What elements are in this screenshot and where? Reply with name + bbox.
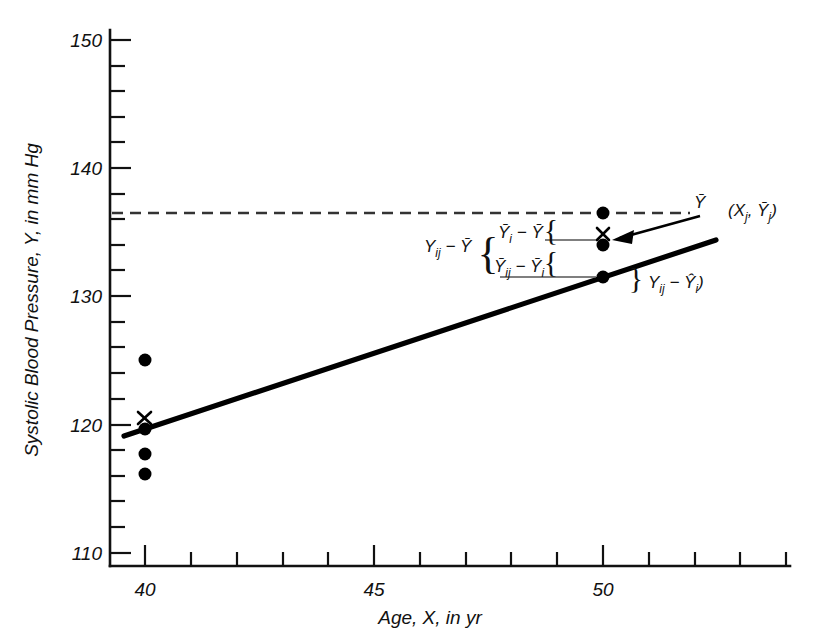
y-tick-label-120: 120	[70, 415, 102, 436]
y-tick-label-140: 140	[70, 158, 102, 179]
data-group-age-40	[138, 354, 152, 481]
data-point	[597, 207, 610, 220]
annot-coord-close: )	[769, 201, 777, 220]
annot-err-sub2: i	[541, 266, 544, 280]
data-point	[139, 354, 152, 367]
svg-text:Yij − Ȳ: Yij − Ȳ	[424, 237, 473, 260]
data-point	[139, 468, 152, 481]
scatter-plot-figure: 150 140 130 120 110 Systolic Blood Press…	[0, 0, 837, 643]
arrow-head	[612, 230, 634, 244]
group-mean-marker-50	[597, 228, 609, 240]
y-tick-label-110: 110	[72, 543, 103, 564]
x-tick-label-40: 40	[134, 579, 156, 600]
inner-brace-bottom-right: {	[544, 245, 558, 278]
regression-line	[124, 240, 716, 436]
annot-err-mid: − Ȳ	[511, 257, 543, 276]
x-tick-label-45: 45	[363, 579, 385, 600]
annotation-residual-label: Yij − Ŷi)	[648, 273, 704, 296]
group-mean-marker-40	[138, 412, 151, 424]
figure-container: 150 140 130 120 110 Systolic Blood Press…	[0, 0, 837, 643]
y-axis-title: Systolic Blood Pressure, Y, in mm Hg	[21, 143, 42, 457]
data-point	[139, 448, 152, 461]
svg-text:Yij − Ŷi): Yij − Ŷi)	[648, 273, 704, 296]
grand-mean-label: Ȳ	[694, 193, 707, 212]
data-point	[139, 423, 152, 436]
residual-brace: }	[629, 261, 643, 294]
annot-total-rest: − Ȳ	[441, 237, 473, 256]
x-axis: 40 45 50 Age, X, in yr	[110, 545, 790, 628]
y-axis: 150 140 130 120 110 Systolic Blood Press…	[21, 30, 131, 566]
annotation-point-coordinate: (Xj, Ȳj)	[728, 201, 777, 224]
x-tick-label-50: 50	[592, 579, 614, 600]
data-group-age-50	[597, 207, 610, 284]
x-axis-title: Age, X, in yr	[377, 607, 482, 628]
annot-resid-paren: )	[696, 273, 704, 292]
y-tick-label-130: 130	[70, 286, 102, 307]
data-point	[597, 239, 610, 252]
svg-text:Ȳi − Ȳ: Ȳi − Ȳ	[498, 223, 544, 246]
y-tick-label-150: 150	[70, 30, 102, 51]
data-point	[597, 271, 610, 284]
inner-brace-top-right: {	[544, 213, 558, 246]
annot-treat-rest: − Ȳ	[512, 223, 544, 242]
annotation-treatment-deviation: Ȳi − Ȳ	[498, 223, 544, 246]
svg-text:(Xj, Ȳj): (Xj, Ȳj)	[728, 201, 777, 224]
annotation-total-deviation: Yij − Ȳ	[424, 237, 473, 260]
annot-resid-rest: − Ŷ	[665, 273, 697, 292]
annotation-arrow	[612, 216, 700, 244]
annot-coord-mid: , Ȳ	[748, 201, 770, 220]
annot-coord-open: (X	[728, 201, 746, 220]
